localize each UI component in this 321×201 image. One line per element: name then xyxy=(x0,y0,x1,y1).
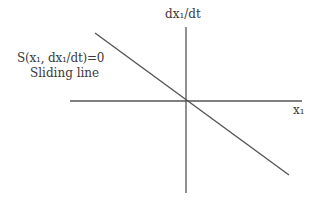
phase-plane-diagram xyxy=(0,0,321,201)
y-axis-label: dx₁/dt xyxy=(165,8,201,20)
sliding-line xyxy=(95,33,289,175)
x-axis-label: x₁ xyxy=(293,104,305,116)
sliding-line-equation: S(x₁, dx₁/dt)=0 xyxy=(17,52,104,64)
sliding-line-label: Sliding line xyxy=(30,67,99,79)
